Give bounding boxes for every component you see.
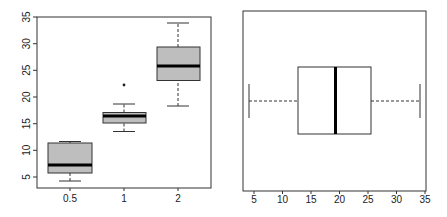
outlier-point	[123, 84, 126, 87]
left-ytick-label: 5	[21, 174, 32, 180]
right-xtick-label: 30	[391, 194, 403, 205]
right-xtick-label: 15	[305, 194, 317, 205]
right-boxplot: 5 10 15 20 25 30 35	[243, 11, 431, 205]
left-ytick-label: 25	[21, 64, 32, 76]
box-2	[157, 23, 200, 106]
left-ytick-label: 10	[21, 144, 32, 156]
box-0-5	[48, 142, 92, 182]
left-xtick-label: 2	[175, 193, 181, 204]
left-boxplot: 5 10 15 20 25 30 35 0.5 1 2	[21, 11, 211, 204]
right-xtick-label: 20	[334, 194, 346, 205]
left-ytick-label: 35	[21, 11, 32, 23]
right-xtick-label: 10	[277, 194, 289, 205]
right-xtick-label: 25	[362, 194, 374, 205]
horizontal-box	[249, 67, 420, 134]
right-xtick-label: 5	[251, 194, 257, 205]
left-y-axis	[33, 17, 37, 177]
left-ytick-label: 15	[21, 118, 32, 130]
left-xtick-label: 1	[121, 193, 127, 204]
left-ytick-label: 30	[21, 38, 32, 50]
right-xtick-label: 35	[419, 194, 431, 205]
left-ytick-label: 20	[21, 91, 32, 103]
left-xtick-label: 0.5	[63, 193, 77, 204]
box-1	[103, 84, 146, 132]
chart-canvas: 5 10 15 20 25 30 35 0.5 1 2	[0, 0, 447, 217]
